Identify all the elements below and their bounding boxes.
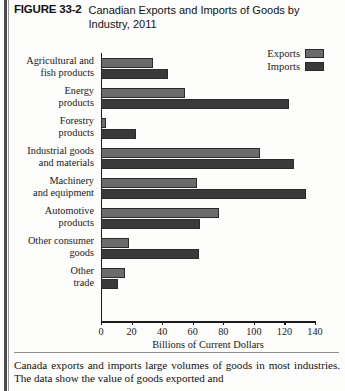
category-bars — [101, 205, 315, 235]
x-axis-tick-label: 0 — [98, 326, 103, 337]
chart-category-row: Othertrade — [14, 265, 330, 295]
category-label: Energyproducts — [14, 85, 94, 108]
chart-legend: Exports Imports — [267, 48, 324, 74]
legend-item-exports: Exports — [267, 48, 324, 59]
bar-imports — [101, 279, 118, 289]
legend-item-imports: Imports — [267, 61, 324, 72]
chart-category-row: Machineryand equipment — [14, 175, 330, 205]
figure-number: FIGURE 33-2 — [14, 3, 81, 15]
x-axis-tick-label: 140 — [307, 326, 322, 337]
caption-divider — [14, 352, 339, 353]
legend-swatch-imports — [305, 62, 324, 71]
bar-exports — [101, 148, 260, 158]
bar-exports — [101, 238, 129, 248]
bar-imports — [101, 189, 306, 199]
category-bars — [101, 85, 315, 115]
figure-header: FIGURE 33-2 Canadian Exports and Imports… — [14, 3, 339, 31]
bar-exports — [101, 268, 125, 278]
category-label: Agricultural andfish products — [14, 55, 94, 78]
bar-imports — [101, 249, 199, 259]
figure-caption: Canada exports and imports large volumes… — [14, 359, 340, 386]
page-left-rule-thin — [8, 0, 9, 391]
chart-category-row: Automotiveproducts — [14, 205, 330, 235]
category-label: Automotiveproducts — [14, 205, 94, 228]
x-axis-tick-label: 80 — [218, 326, 228, 337]
x-axis-tick — [132, 321, 133, 325]
category-label: Other consumergoods — [14, 235, 94, 258]
category-label: Othertrade — [14, 265, 94, 288]
x-axis-tick — [315, 321, 316, 325]
legend-label-exports: Exports — [267, 48, 300, 59]
figure-container: FIGURE 33-2 Canadian Exports and Imports… — [0, 0, 345, 391]
figure-title: Canadian Exports and Imports of Goods by… — [88, 3, 339, 31]
legend-label-imports: Imports — [267, 61, 300, 72]
bar-imports — [101, 159, 294, 169]
bar-imports — [101, 219, 200, 229]
category-label: Machineryand equipment — [14, 175, 94, 198]
x-axis-tick-label: 120 — [277, 326, 292, 337]
x-axis-tick — [223, 321, 224, 325]
chart-plot-frame: Exports Imports Agricultural andfish pro… — [14, 45, 330, 335]
chart-category-row: Energyproducts — [14, 85, 330, 115]
page-left-rule — [4, 0, 7, 391]
category-bars — [101, 265, 315, 295]
bar-exports — [101, 88, 185, 98]
category-bars — [101, 175, 315, 205]
category-bars — [101, 115, 315, 145]
x-axis-tick-label: 40 — [157, 326, 167, 337]
category-label: Forestryproducts — [14, 115, 94, 138]
x-axis-title: Billions of Current Dollars — [101, 339, 315, 350]
bar-imports — [101, 99, 289, 109]
bar-exports — [101, 178, 197, 188]
x-axis-tick — [193, 321, 194, 325]
bar-exports — [101, 208, 219, 218]
x-axis-tick — [284, 321, 285, 325]
x-axis-tick — [254, 321, 255, 325]
chart-category-row: Other consumergoods — [14, 235, 330, 265]
category-bars — [101, 145, 315, 175]
x-axis-tick — [101, 321, 102, 325]
chart-category-row: Forestryproducts — [14, 115, 330, 145]
bar-exports — [101, 118, 106, 128]
x-axis-tick-label: 100 — [246, 326, 261, 337]
category-bars — [101, 235, 315, 265]
bar-exports — [101, 58, 153, 68]
category-label: Industrial goodsand materials — [14, 145, 94, 168]
bar-imports — [101, 69, 168, 79]
x-axis-tick-label: 20 — [126, 326, 136, 337]
legend-swatch-exports — [305, 49, 324, 58]
x-axis-tick — [162, 321, 163, 325]
x-axis-tick-label: 60 — [188, 326, 198, 337]
chart-category-row: Industrial goodsand materials — [14, 145, 330, 175]
bar-imports — [101, 129, 136, 139]
